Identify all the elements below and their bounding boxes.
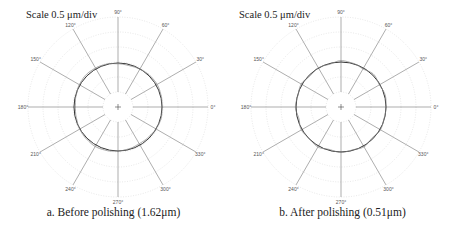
- angle-label: 180°: [18, 104, 28, 110]
- angle-label: 90°: [337, 9, 345, 15]
- angle-label: 150°: [254, 56, 264, 62]
- angle-label: 210°: [254, 151, 264, 157]
- angle-label: 120°: [288, 22, 298, 28]
- angle-label: 30°: [419, 56, 427, 62]
- angle-label: 270°: [336, 199, 346, 205]
- angle-label: 30°: [196, 56, 204, 62]
- scale-label-after: Scale 0.5 μm/div: [239, 9, 310, 20]
- angle-label: 150°: [31, 56, 41, 62]
- scale-label-before: Scale 0.5 μm/div: [26, 9, 97, 20]
- angle-label: 0°: [211, 104, 216, 110]
- angle-label: 210°: [31, 151, 41, 157]
- angle-label: 270°: [113, 199, 123, 205]
- angle-label: 330°: [195, 151, 205, 157]
- caption-after: b. After polishing (0.51μm): [229, 206, 454, 218]
- angle-label: 240°: [288, 186, 298, 192]
- angle-label: 90°: [114, 9, 122, 15]
- angle-label: 120°: [65, 22, 75, 28]
- polar-chart-after: 0°30°60°90°120°150°180°210°240°300°270°3…: [225, 0, 452, 236]
- angle-label: 330°: [418, 151, 428, 157]
- angle-label: 300°: [160, 186, 170, 192]
- caption-before: a. Before polishing (1.62μm): [0, 206, 227, 218]
- angle-label: 60°: [385, 22, 393, 28]
- angle-label: 0°: [434, 104, 439, 110]
- polar-chart-before: 0°30°60°90°120°150°180°210°240°300°270°3…: [0, 0, 227, 236]
- angle-label: 240°: [65, 186, 75, 192]
- angle-label: 60°: [162, 22, 170, 28]
- polar-plot-before: 0°30°60°90°120°150°180°210°240°300°270°3…: [0, 0, 227, 236]
- angle-label: 300°: [383, 186, 393, 192]
- angle-label: 180°: [241, 104, 251, 110]
- polar-plot-after: 0°30°60°90°120°150°180°210°240°300°270°3…: [225, 0, 452, 236]
